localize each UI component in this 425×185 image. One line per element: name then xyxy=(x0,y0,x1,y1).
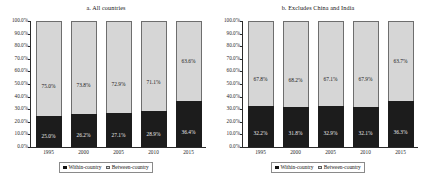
segment-between-country[interactable]: 63.7% xyxy=(388,21,414,101)
segment-value-label: 32.9% xyxy=(319,131,343,136)
segment-value-label: 72.9% xyxy=(107,82,131,87)
legend-swatch-within-icon xyxy=(275,166,279,170)
segment-between-country[interactable]: 67.9% xyxy=(353,21,379,107)
segment-value-label: 28.9% xyxy=(142,132,166,137)
legend-item-within-country[interactable]: Within-country xyxy=(275,165,313,170)
segment-value-label: 32.2% xyxy=(249,131,273,136)
segment-between-country[interactable]: 68.2% xyxy=(283,21,309,107)
segment-within-country[interactable]: 28.9% xyxy=(141,111,167,147)
segment-within-country[interactable]: 36.4% xyxy=(176,101,202,147)
y-tick-label: 70.0% xyxy=(227,56,240,61)
legend-label: Between-country xyxy=(324,165,361,170)
legend-label: Between-country xyxy=(112,165,149,170)
segment-between-country[interactable]: 63.6% xyxy=(176,21,202,101)
bar-column[interactable]: 68.2% 31.8% 2000 xyxy=(283,21,309,147)
bar-column[interactable]: 67.1% 32.9% 2005 xyxy=(318,21,344,147)
x-axis-line xyxy=(242,147,418,148)
segment-within-country[interactable]: 36.3% xyxy=(388,101,414,147)
segment-within-country[interactable]: 32.9% xyxy=(318,106,344,147)
y-tick-label: 90.0% xyxy=(227,31,240,36)
chart-title-b: b. Excludes China and India xyxy=(212,4,424,11)
segment-value-label: 36.3% xyxy=(389,130,413,135)
segment-between-country[interactable]: 71.1% xyxy=(141,21,167,111)
x-tick-label: 2005 xyxy=(318,150,344,155)
y-tick-label: 40.0% xyxy=(227,94,240,99)
y-tick-label: 80.0% xyxy=(15,44,28,49)
legend-a: Within-country Between-country xyxy=(0,162,212,173)
y-tick-label: 40.0% xyxy=(15,94,28,99)
y-tick-mark xyxy=(240,147,242,148)
legend-b: Within-country Between-country xyxy=(212,162,424,173)
y-tick-label: 30.0% xyxy=(227,107,240,112)
y-tick-label: 100.0% xyxy=(224,18,240,23)
legend-swatch-between-icon xyxy=(318,166,322,170)
y-tick-mark xyxy=(28,71,30,72)
y-tick-label: 20.0% xyxy=(15,119,28,124)
y-tick-label: 60.0% xyxy=(227,69,240,74)
y-tick-label: 10.0% xyxy=(15,132,28,137)
x-axis-line xyxy=(30,147,206,148)
legend-item-between-country[interactable]: Between-country xyxy=(106,165,148,170)
legend-box: Within-country Between-country xyxy=(59,162,153,173)
segment-within-country[interactable]: 27.1% xyxy=(106,113,132,147)
y-tick-mark xyxy=(28,109,30,110)
y-tick-mark xyxy=(240,97,242,98)
bar-column[interactable]: 63.6% 36.4% 2015 xyxy=(176,21,202,147)
plot-area-a: 100.0% 90.0% 80.0% 70.0% 60.0% 50.0% xyxy=(30,21,206,147)
segment-within-country[interactable]: 31.8% xyxy=(283,107,309,147)
segment-value-label: 27.1% xyxy=(107,133,131,138)
x-tick-label: 2000 xyxy=(71,150,97,155)
segment-value-label: 68.2% xyxy=(284,78,308,83)
segment-value-label: 26.2% xyxy=(72,133,96,138)
y-tick-mark xyxy=(28,97,30,98)
bar-column[interactable]: 75.0% 25.0% 1995 xyxy=(36,21,62,147)
segment-between-country[interactable]: 72.9% xyxy=(106,21,132,113)
figure-canvas: a. All countries 100.0% 90.0% 80.0% 70.0… xyxy=(0,0,425,185)
segment-between-country[interactable]: 75.0% xyxy=(36,21,62,116)
segment-within-country[interactable]: 32.2% xyxy=(248,106,274,147)
segment-between-country[interactable]: 73.8% xyxy=(71,21,97,114)
legend-item-within-country[interactable]: Within-country xyxy=(63,165,101,170)
segment-within-country[interactable]: 25.0% xyxy=(36,116,62,148)
y-tick-mark xyxy=(240,109,242,110)
y-tick-mark xyxy=(240,59,242,60)
legend-item-between-country[interactable]: Between-country xyxy=(318,165,360,170)
y-tick-mark xyxy=(240,84,242,85)
y-tick-mark xyxy=(28,34,30,35)
y-tick-label: 20.0% xyxy=(227,119,240,124)
x-tick-label: 2000 xyxy=(283,150,309,155)
segment-within-country[interactable]: 32.1% xyxy=(353,107,379,147)
x-tick-label: 2015 xyxy=(176,150,202,155)
chart-panel-b: b. Excludes China and India 100.0% 90.0%… xyxy=(212,0,424,185)
y-tick-mark xyxy=(240,122,242,123)
y-tick-mark xyxy=(28,122,30,123)
segment-value-label: 67.8% xyxy=(249,77,273,82)
legend-swatch-within-icon xyxy=(63,166,67,170)
y-tick-label: 70.0% xyxy=(15,56,28,61)
bar-column[interactable]: 72.9% 27.1% 2005 xyxy=(106,21,132,147)
y-tick-label: 50.0% xyxy=(227,81,240,86)
segment-value-label: 75.0% xyxy=(37,84,61,89)
y-tick-mark xyxy=(28,46,30,47)
bar-column[interactable]: 71.1% 28.9% 2010 xyxy=(141,21,167,147)
segment-value-label: 67.9% xyxy=(354,77,378,82)
segment-value-label: 25.0% xyxy=(37,134,61,139)
segment-between-country[interactable]: 67.1% xyxy=(318,21,344,106)
y-tick-mark xyxy=(28,147,30,148)
y-tick-label: 10.0% xyxy=(227,132,240,137)
y-tick-label: 60.0% xyxy=(15,69,28,74)
chart-panel-a: a. All countries 100.0% 90.0% 80.0% 70.0… xyxy=(0,0,212,185)
legend-box: Within-country Between-country xyxy=(271,162,365,173)
x-tick-label: 2005 xyxy=(106,150,132,155)
segment-between-country[interactable]: 67.8% xyxy=(248,21,274,106)
segment-value-label: 71.1% xyxy=(142,80,166,85)
segment-within-country[interactable]: 26.2% xyxy=(71,114,97,147)
bar-column[interactable]: 63.7% 36.3% 2015 xyxy=(388,21,414,147)
bar-column[interactable]: 73.8% 26.2% 2000 xyxy=(71,21,97,147)
y-tick-label: 30.0% xyxy=(15,107,28,112)
bar-column[interactable]: 67.9% 32.1% 2010 xyxy=(353,21,379,147)
bar-group-a: 75.0% 25.0% 1995 73.8% 26.2% 2000 xyxy=(31,21,206,147)
chart-title-a: a. All countries xyxy=(0,4,212,11)
y-tick-mark xyxy=(240,46,242,47)
bar-column[interactable]: 67.8% 32.2% 1995 xyxy=(248,21,274,147)
